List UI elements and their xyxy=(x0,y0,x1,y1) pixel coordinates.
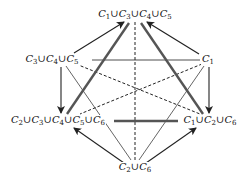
edge-ur-ll-dashed xyxy=(80,64,202,114)
edge-bottom-ll-arrow xyxy=(74,128,124,163)
node-top-label: C1∪C3∪C4∪C5 xyxy=(98,8,172,19)
edge-ul-top-arrow xyxy=(74,22,124,53)
node-upper-left: C3∪C4∪C5 xyxy=(24,54,79,66)
edge-ur-bottom xyxy=(139,66,204,160)
edge-bottom-lr-arrow xyxy=(146,128,196,163)
node-upper-right-label: C1 xyxy=(202,53,214,64)
node-bottom-label: C2∪C6 xyxy=(119,161,152,172)
node-lower-left: C2∪C3∪C4∪C5∪C6 xyxy=(10,115,106,127)
edge-ul-bottom xyxy=(66,66,131,160)
lattice-diagram: C1∪C3∪C4∪C5 C3∪C4∪C5 C1 C2∪C3∪C4∪C5∪C6 C… xyxy=(0,0,247,184)
edge-top-lr-thick xyxy=(141,23,203,114)
node-bottom: C2∪C6 xyxy=(118,162,153,174)
edge-top-ll-thick xyxy=(67,23,129,114)
node-top: C1∪C3∪C4∪C5 xyxy=(97,9,173,21)
node-lower-right: C1∪C2∪C6 xyxy=(182,115,237,127)
node-lower-left-label: C2∪C3∪C4∪C5∪C6 xyxy=(11,114,105,125)
node-upper-right: C1 xyxy=(201,54,215,66)
edge-ur-top-arrow xyxy=(147,22,199,54)
node-upper-left-label: C3∪C4∪C5 xyxy=(25,53,78,64)
node-lower-right-label: C1∪C2∪C6 xyxy=(183,114,236,125)
diagram-edges xyxy=(0,0,247,184)
